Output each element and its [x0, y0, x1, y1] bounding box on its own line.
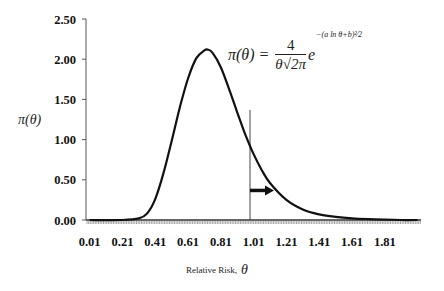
chart: 0.000.501.001.502.002.50 0.010.210.410.6… [0, 0, 444, 291]
formula-denominator: θ√2π [275, 55, 306, 73]
x-tick-label: 0.21 [112, 235, 134, 249]
x-tick-label: 0.61 [177, 235, 199, 249]
y-axis-ticks: 0.000.501.001.502.002.50 [54, 13, 86, 228]
formula-fraction: 4 θ√2π [275, 37, 306, 73]
x-tick-label: 1.41 [308, 235, 330, 249]
x-axis-ticks: 0.010.210.410.610.811.011.211.411.611.81 [79, 235, 396, 249]
x-tick-label: 1.61 [341, 235, 363, 249]
y-axis-title: π(θ) [18, 112, 42, 128]
x-tick-label: 0.81 [210, 235, 232, 249]
y-tick-label: 1.00 [54, 133, 76, 147]
arrow-right-icon [250, 185, 274, 195]
x-axis-title-text: Relative Risk, [186, 265, 237, 275]
formula-e: e [308, 46, 315, 63]
formula-numerator: 4 [275, 37, 306, 55]
formula-lhs: π(θ) = [228, 46, 269, 63]
y-tick-label: 1.50 [54, 93, 76, 107]
x-tick-label: 1.21 [276, 235, 298, 249]
formula-exponent: −(a ln θ+b)²⁄2 [316, 30, 362, 39]
x-tick-label: 0.01 [79, 235, 101, 249]
x-axis-title-theta: θ [241, 262, 248, 277]
density-formula: π(θ) = 4 θ√2π e−(a ln θ+b)²⁄2 [228, 30, 362, 73]
y-tick-label: 0.50 [54, 173, 76, 187]
x-tick-label: 1.01 [243, 235, 265, 249]
y-tick-label: 2.50 [54, 13, 76, 27]
y-tick-label: 2.00 [54, 53, 76, 67]
x-tick-label: 0.41 [144, 235, 166, 249]
y-tick-label: 0.00 [54, 214, 76, 228]
density-curve [90, 49, 418, 220]
x-tick-label: 1.81 [374, 235, 396, 249]
